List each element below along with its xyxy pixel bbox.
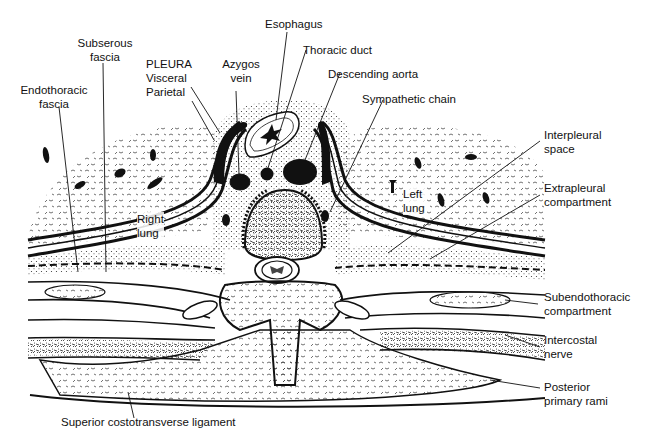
sympathetic-chain-left <box>222 214 230 226</box>
label-azygos-vein: Azygos vein <box>218 57 264 85</box>
label-endothoracic-fascia: Endothoracic fascia <box>14 83 94 111</box>
azygos-vein <box>230 174 250 190</box>
thoracic-duct <box>261 168 274 181</box>
label-left-lung: Left lung <box>403 187 425 215</box>
label-pleura: PLEURA Visceral Parietal <box>146 57 192 99</box>
transverse-process-left <box>181 297 220 322</box>
left-lung-region <box>336 126 545 245</box>
label-subserous-fascia: Subserous fascia <box>70 36 140 64</box>
right-lung-region <box>28 125 218 245</box>
label-superior-costotransverse-ligament: Superior costotransverse ligament <box>61 415 236 429</box>
label-right-lung: Right lung <box>137 212 164 240</box>
label-esophagus: Esophagus <box>265 17 323 31</box>
anatomy-diagram: Subserous fascia Endothoracic fascia PLE… <box>0 0 655 443</box>
label-extrapleural-compartment: Extrapleural compartment <box>544 181 611 209</box>
label-subendothoracic-compartment: Subendothoracic compartment <box>544 290 630 318</box>
label-sympathetic-chain: Sympathetic chain <box>362 92 456 106</box>
label-interpleural-space: Interpleural space <box>544 128 602 156</box>
descending-aorta <box>283 159 317 185</box>
transverse-process-right <box>333 297 372 322</box>
extrapleural-band-left <box>28 245 225 275</box>
label-descending-aorta: Descending aorta <box>328 67 418 81</box>
label-posterior-primary-rami: Posterior primary rami <box>544 380 608 408</box>
label-thoracic-duct: Thoracic duct <box>303 43 372 57</box>
label-intercostal-nerve: Intercostal nerve <box>544 333 597 361</box>
sympathetic-chain-right <box>321 210 329 222</box>
subendothoracic-pad-left <box>45 285 105 299</box>
subendothoracic-pad <box>430 292 510 308</box>
